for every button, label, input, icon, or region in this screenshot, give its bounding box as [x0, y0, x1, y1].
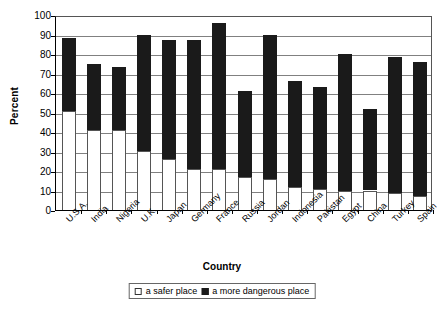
bar-segment-safer[interactable] [87, 130, 101, 210]
bar-group[interactable] [313, 15, 327, 210]
legend-swatch-dark [201, 288, 208, 295]
legend-label: a more dangerous place [212, 286, 309, 296]
legend-swatch-light [135, 288, 142, 295]
bar-segment-dangerous[interactable] [62, 38, 76, 110]
bar-segment-dangerous[interactable] [187, 40, 201, 169]
bar-segment-dangerous[interactable] [363, 109, 377, 191]
bar-segment-dangerous[interactable] [263, 35, 277, 179]
bar-group[interactable] [363, 15, 377, 210]
y-tick-label: 80 [21, 50, 51, 60]
x-axis-title: Country [0, 261, 444, 272]
y-tick-label: 10 [21, 187, 51, 197]
bar-segment-dangerous[interactable] [338, 54, 352, 191]
y-tick-label: 30 [21, 148, 51, 158]
bar-segment-dangerous[interactable] [137, 35, 151, 151]
bar-segment-safer[interactable] [62, 111, 76, 210]
bar-segment-dangerous[interactable] [238, 91, 252, 177]
y-tick-label: 20 [21, 167, 51, 177]
bar-segment-safer[interactable] [187, 169, 201, 210]
bar-segment-dangerous[interactable] [87, 64, 101, 130]
bar-group[interactable] [137, 15, 151, 210]
y-tick-label: 70 [21, 70, 51, 80]
legend-label: a safer place [146, 286, 198, 296]
bar-group[interactable] [212, 15, 226, 210]
bar-segment-dangerous[interactable] [313, 87, 327, 188]
bar-segment-safer[interactable] [112, 130, 126, 210]
y-tick-mark [51, 211, 55, 212]
y-tick-label: 60 [21, 89, 51, 99]
bar-segment-dangerous[interactable] [288, 81, 302, 186]
y-tick-label: 50 [21, 109, 51, 119]
bar-group[interactable] [338, 15, 352, 210]
bar-group[interactable] [263, 15, 277, 210]
bar-group[interactable] [112, 15, 126, 210]
bar-group[interactable] [187, 15, 201, 210]
bar-segment-dangerous[interactable] [162, 40, 176, 159]
y-tick-label: 0 [21, 206, 51, 216]
bar-group[interactable] [288, 15, 302, 210]
bar-segment-dangerous[interactable] [212, 23, 226, 169]
bar-group[interactable] [388, 15, 402, 210]
plot-area [55, 16, 432, 211]
bar-group[interactable] [413, 15, 427, 210]
bar-group[interactable] [162, 15, 176, 210]
bar-segment-dangerous[interactable] [112, 67, 126, 130]
bar-segment-dangerous[interactable] [413, 62, 427, 197]
y-tick-label: 40 [21, 128, 51, 138]
bar-segment-safer[interactable] [162, 159, 176, 210]
chart-figure: Percent 0102030405060708090100 U.S.A.Ind… [0, 0, 444, 311]
bar-group[interactable] [238, 15, 252, 210]
bar-group[interactable] [87, 15, 101, 210]
y-tick-label: 90 [21, 31, 51, 41]
bar-group[interactable] [62, 15, 76, 210]
chart-legend: a safer placea more dangerous place [129, 283, 316, 299]
bar-segment-dangerous[interactable] [388, 57, 402, 194]
y-tick-label: 100 [21, 11, 51, 21]
